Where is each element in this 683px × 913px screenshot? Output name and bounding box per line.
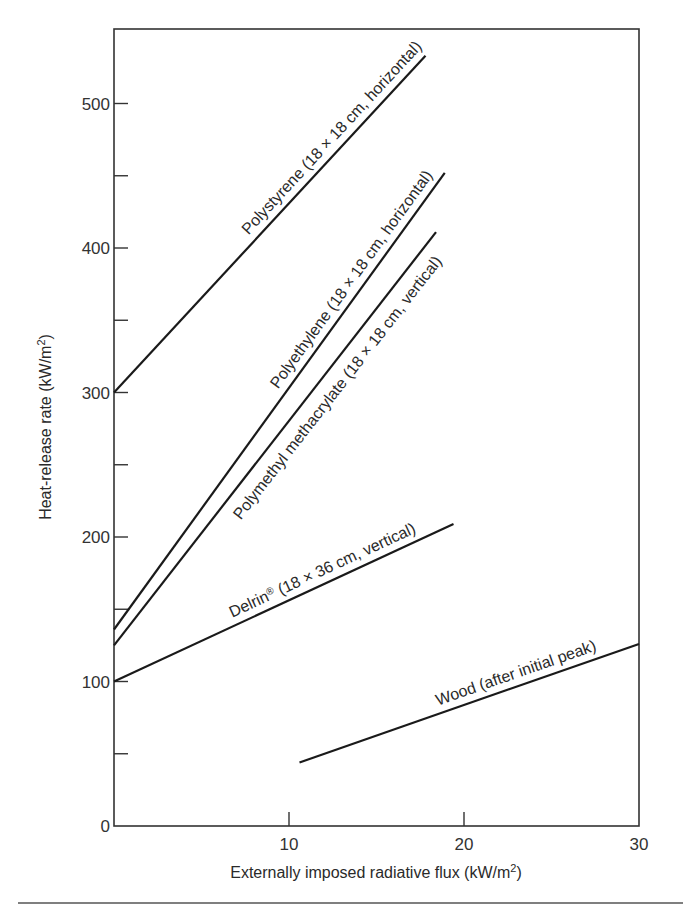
y-tick-label: 0	[101, 817, 110, 836]
y-tick-label: 400	[82, 239, 110, 258]
series-label: Delrin® (18 × 36 cm, vertical)	[226, 519, 418, 620]
series-line	[300, 644, 640, 762]
y-tick-label: 500	[82, 95, 110, 114]
x-tick-label: 20	[455, 835, 474, 854]
y-tick-label: 300	[82, 384, 110, 403]
x-tick-label: 10	[280, 835, 299, 854]
y-axis-title: Heat-release rate (kW/m2)	[35, 334, 54, 520]
x-tick-label: 30	[630, 835, 649, 854]
series-labels: Polystyrene (18 × 18 cm, horizontal)Poly…	[226, 38, 598, 709]
y-tick-label: 200	[82, 528, 110, 547]
plot-frame	[114, 29, 639, 826]
heat-release-chart: 0100200300400500102030 Polystyrene (18 ×…	[0, 0, 683, 913]
y-tick-label: 100	[82, 673, 110, 692]
series-line	[114, 524, 454, 682]
series-line	[114, 173, 445, 630]
series-label: Wood (after initial peak)	[433, 637, 598, 709]
plot-area-border	[114, 29, 639, 826]
x-axis-title: Externally imposed radiative flux (kW/m2…	[230, 862, 522, 881]
